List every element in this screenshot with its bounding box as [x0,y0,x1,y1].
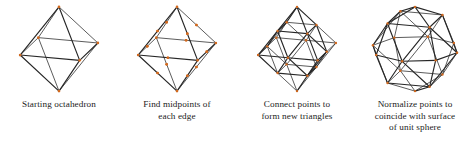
mesh-edge [20,7,59,55]
mesh-vertex [156,72,159,75]
mesh-edge [400,71,442,75]
mesh-edge [80,43,98,60]
mesh-edge [59,43,98,91]
mesh-edge [287,64,317,67]
mesh-vertex [146,45,149,48]
mesh-vertex [399,70,401,72]
mesh-vertex [372,44,374,46]
mesh-edge [59,7,98,43]
mesh-vertex [19,54,22,57]
mesh-vertex [306,75,308,77]
mesh-vertex [326,50,328,52]
mesh-vertex [185,39,188,42]
svg-find-midpoints [118,0,236,99]
mesh-edge [400,71,415,91]
mesh-vertex [276,72,278,74]
mesh-edge [388,24,403,62]
mesh-vertex [414,90,416,92]
mesh-vertex [285,21,287,23]
mesh-vertex [316,59,318,61]
mesh-vertex [78,59,81,62]
mesh-vertex [386,22,388,24]
caption-connect-points: Connect points to form new triangles [239,99,355,122]
panel-connect-points: Connect points to form new triangles [238,0,356,141]
mesh-edge [20,55,59,91]
panel-normalize-points: Normalize points to coincide with surfac… [356,0,474,141]
mesh-edge [38,38,98,43]
mesh-vertex [165,63,168,66]
mesh-vertex [441,73,443,75]
mesh-edge [288,34,307,58]
caption-normalize-points: Normalize points to coincide with surfac… [357,99,473,134]
mesh-edge [287,40,306,64]
mesh-edge [297,7,307,34]
mesh-vertex [137,54,140,57]
mesh-edge [278,73,297,91]
mesh-vertex [296,90,298,92]
mesh-vertex [285,63,287,65]
mesh-vertex [275,36,277,38]
mesh-edge [316,25,326,52]
mesh-vertex [176,6,179,9]
mesh-vertex [375,54,377,56]
mesh-vertex [401,60,403,62]
mesh-vertex [97,42,100,45]
mesh-edge [287,64,297,91]
diagram-find-midpoints [118,0,236,99]
mesh-vertex [215,42,218,45]
mesh-edge [376,55,387,83]
mesh-edge [297,76,307,91]
mesh-edge [400,37,427,71]
mesh-edge [402,61,429,86]
mesh-edge [442,15,457,53]
mesh-edge [59,7,80,60]
mesh-vertex [427,36,429,38]
mesh-vertex [441,14,443,16]
mesh-vertex [414,6,416,8]
mesh-edge [278,7,297,31]
mesh-vertex [165,21,168,24]
diagram-connect-points [238,0,356,99]
panel-starting-octahedron: Starting octahedron [0,0,118,141]
mesh-vertex [37,36,40,39]
mesh-vertex [399,10,401,12]
mesh-edge [402,60,436,61]
svg-starting-octahedron [0,0,118,99]
caption-line: of unit sphere [357,122,473,134]
mesh-edge [327,43,336,52]
mesh-vertex [315,24,317,26]
mesh-vertex [155,36,158,39]
svg-connect-points [238,0,356,99]
caption-line: Find midpoints of [119,99,235,111]
svg-normalize-points [356,0,474,99]
mesh-vertex [428,26,430,28]
mesh-edge [287,22,317,25]
mesh-edge [428,15,443,37]
mesh-edge [59,60,80,91]
mesh-edge [415,87,430,91]
caption-line: coincide with surface [357,111,473,123]
mesh-vertex [257,54,259,56]
mesh-vertex [428,86,430,88]
mesh-vertex [315,66,317,68]
mesh-edge [278,73,308,76]
mesh-edge [267,46,286,64]
mesh-edge [373,24,388,46]
mesh-vertex [58,90,61,93]
mesh-edge [430,15,443,27]
mesh-vertex [276,30,278,32]
mesh-vertex [195,66,198,69]
mesh-vertex [186,32,189,35]
mesh-vertex [156,30,159,33]
caption-starting-octahedron: Starting octahedron [1,99,117,111]
mesh-edge [316,43,335,67]
mesh-vertex [196,59,199,62]
octahedron-subdivision-figure: Starting octahedron Find midpoints of ea… [0,0,474,141]
mesh-edge [394,37,428,38]
mesh-edge [388,61,403,83]
caption-find-midpoints: Find midpoints of each edge [119,99,235,122]
mesh-vertex [306,32,308,34]
mesh-edge [38,38,59,91]
caption-line: each edge [119,111,235,123]
mesh-vertex [176,90,179,93]
